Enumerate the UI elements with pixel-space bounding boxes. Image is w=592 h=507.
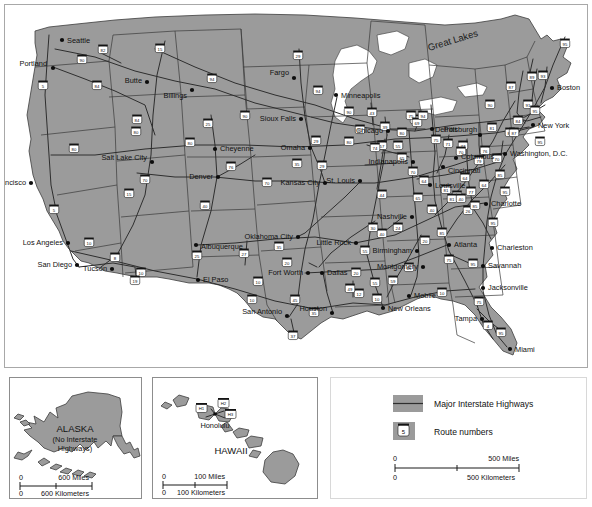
shield-cap	[393, 223, 403, 225]
shield-number: 40	[203, 204, 208, 209]
city-dot-little-rock	[354, 241, 358, 245]
city-label-little-rock: Little Rock	[316, 238, 351, 247]
route-shield-87-95: 87	[506, 82, 516, 91]
shield-number: 95	[491, 221, 496, 226]
shield-cap	[523, 100, 533, 102]
shield-number: 35	[295, 162, 300, 167]
shield-cap	[479, 180, 489, 182]
shield-number: 81	[490, 126, 495, 131]
shield-number: 81	[450, 197, 455, 202]
shield-cap	[506, 82, 516, 84]
shield-cap	[444, 255, 454, 257]
route-shield-70-28: 70	[262, 178, 272, 187]
shield-number: 70	[265, 181, 270, 186]
route-shield-85-103: 85	[470, 201, 480, 210]
shield-cap	[452, 191, 462, 193]
legend-highways-label: Major Interstate Highways	[434, 399, 533, 409]
city-label-louisville: Louisville	[435, 181, 465, 190]
city-san-francisco: San Francisco	[5, 178, 33, 187]
route-shield-40-102: 40	[456, 194, 466, 203]
city-san-diego: San Diego	[37, 260, 79, 269]
alaska-scale-zero-top: 0	[19, 473, 23, 482]
shield-number: 37	[291, 334, 296, 339]
city-dot-montgomery	[421, 265, 425, 269]
city-dot-louisville	[428, 183, 432, 187]
route-shield-43-69: 43	[367, 108, 377, 117]
city-label-san-antonio: San Antonio	[242, 307, 282, 316]
shield-number: 80	[347, 140, 352, 145]
city-label-miami: Miami	[515, 345, 535, 354]
shield-cap	[155, 44, 165, 46]
shield-cap	[274, 242, 284, 244]
city-label-new-orleans: New Orleans	[388, 304, 431, 313]
city-dot-miami	[508, 347, 512, 351]
shield-cap	[487, 123, 497, 125]
city-label-kansas-city: Kansas City	[281, 178, 321, 187]
city-dot-cincinnati	[441, 165, 445, 169]
city-dot-mobile	[407, 294, 411, 298]
city-label-san-diego: San Diego	[37, 260, 72, 269]
shield-number: 95	[503, 190, 508, 195]
shield-cap	[437, 288, 447, 290]
shield-cap	[470, 201, 480, 203]
shield-number: 70	[143, 178, 148, 183]
shield-number: 70	[411, 170, 416, 175]
city-label-st-louis: St. Louis	[326, 176, 355, 185]
city-label-los-angeles: Los Angeles	[23, 238, 64, 247]
route-shield-20-43: 20	[351, 268, 361, 277]
route-shield-4-56: 4	[483, 321, 493, 330]
route-shield-93-94: 93	[538, 71, 548, 80]
shield-number: 89	[530, 75, 535, 80]
shield-cap	[311, 136, 321, 138]
shield-number: 10	[250, 298, 255, 303]
route-shield-10-45: 10	[372, 294, 382, 303]
city-label-tucson: Tucson	[83, 264, 107, 273]
route-shield-90-6: 90	[240, 111, 250, 120]
city-dot-washington-dc	[503, 152, 507, 156]
shield-number: 65	[416, 196, 421, 201]
shield-number: 45	[293, 298, 298, 303]
shield-number: 10	[440, 291, 445, 296]
shield-cap	[226, 162, 236, 164]
legend-scale-miles: 500 Miles	[488, 454, 519, 463]
city-dot-chicago	[386, 129, 390, 133]
shield-cap	[262, 178, 272, 180]
shield-number: 85	[440, 231, 445, 236]
shield-number: 80	[400, 131, 405, 136]
shield-cap	[203, 119, 213, 121]
shield-number: 93	[541, 74, 546, 79]
city-label-omaha: Omaha	[281, 143, 306, 152]
shield-number: 49	[348, 287, 353, 292]
shield-cap	[293, 51, 303, 53]
shield-cap	[38, 81, 48, 83]
city-label-indianapolis: Indianapolis	[369, 157, 409, 166]
city-label-nashville: Nashville	[377, 212, 407, 221]
shield-cap	[140, 175, 150, 177]
shield-number: 87	[512, 131, 517, 136]
city-dot-salt-lake-city	[150, 160, 154, 164]
route-shield-20-50: 20	[420, 236, 430, 245]
shield-number: 91	[526, 103, 531, 108]
shield-cap	[240, 111, 250, 113]
city-label-minneapolis: Minneapolis	[341, 91, 381, 100]
city-label-fort-worth: Fort Worth	[268, 268, 303, 277]
city-label-cheyenne: Cheyenne	[220, 144, 254, 153]
shield-cap	[513, 116, 523, 118]
shield-number: 40	[459, 197, 464, 202]
shield-number: 44	[380, 193, 385, 198]
city-label-columbus: Columbus	[461, 152, 495, 161]
shield-number: 20	[354, 271, 359, 276]
city-label-houston: Houston	[299, 304, 327, 313]
city-label-atlanta: Atlanta	[454, 240, 478, 249]
city-dot-denver	[216, 175, 220, 179]
shield-number: 10	[256, 280, 261, 285]
hawaii-route-h3-label: H3	[228, 412, 234, 417]
shield-number: 70	[495, 157, 500, 162]
route-shield-75-79: 75	[431, 135, 441, 144]
shield-number: 95	[499, 331, 504, 336]
city-dot-charlotte	[484, 202, 488, 206]
shield-number: 40	[380, 232, 385, 237]
shield-cap	[397, 128, 407, 130]
alaska-map: ALASKA (No Interstate Highways) 0 600 Mi…	[10, 378, 141, 498]
route-shield-87-88: 87	[509, 128, 519, 137]
